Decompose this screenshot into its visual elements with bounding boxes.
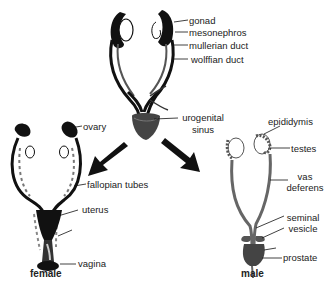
- label-mesonephros: mesonephros: [189, 27, 247, 38]
- caption-male: male: [241, 268, 264, 279]
- label-mullerian-duct: mullerian duct: [189, 40, 248, 51]
- label-vas-deferens-line1: vas: [282, 171, 328, 182]
- label-seminal-vesicle-line2: vesicle: [280, 223, 326, 234]
- label-urogenital-sinus-line2: sinus: [178, 124, 228, 135]
- arrow-to-female: [88, 142, 128, 176]
- label-gonad: gonad: [189, 15, 215, 26]
- label-prostate: prostate: [283, 252, 317, 263]
- label-epididymis: epididymis: [268, 116, 313, 127]
- label-seminal-vesicle-line1: seminal: [280, 212, 326, 223]
- label-wolffian-duct: wolffian duct: [191, 54, 244, 65]
- reproductive-development-diagram: [0, 0, 328, 285]
- female-drawing: [12, 121, 86, 271]
- label-urogenital-sinus-line1: urogenital: [178, 112, 228, 123]
- caption-female: female: [30, 268, 62, 279]
- indifferent-stage-drawing: [111, 10, 188, 140]
- arrow-to-male: [161, 138, 200, 172]
- label-ovary: ovary: [83, 121, 106, 132]
- label-fallopian-tubes: fallopian tubes: [87, 179, 148, 190]
- label-testes: testes: [291, 143, 316, 154]
- label-vas-deferens-line2: deferens: [282, 182, 328, 193]
- male-drawing: [227, 126, 290, 278]
- label-uterus: uterus: [82, 204, 108, 215]
- label-vagina: vagina: [78, 258, 106, 269]
